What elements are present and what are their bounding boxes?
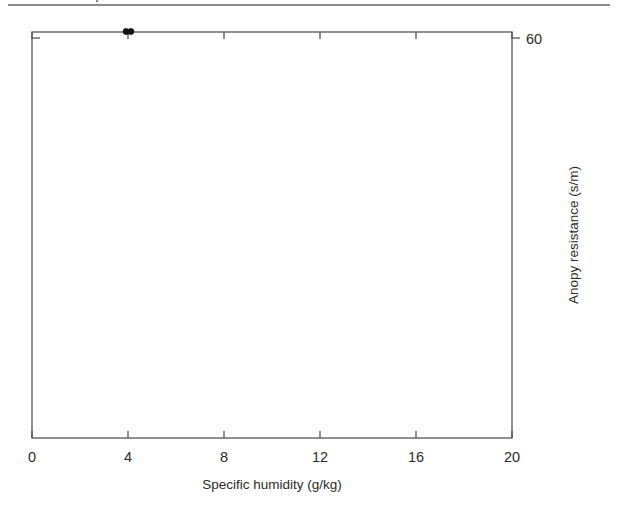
x-tick-label-8: 8 [220,449,228,465]
x-tick-label-20: 20 [504,449,520,465]
y-tick-label-60: 60 [526,31,542,47]
x-axis-title: Specific humidity (g/kg) [202,477,342,492]
x-tick-label-0: 0 [28,449,36,465]
filled-circle-markers [94,0,284,35]
x-tick-label-4: 4 [124,449,132,465]
data-point [128,28,134,34]
x-axis-ticks: 048121620 [28,32,520,465]
scatter-plot: 048121620 60751001503001000 Specific hum… [0,0,618,520]
closed-circle-regression [96,0,280,2]
plot-frame [32,32,512,438]
x-tick-label-12: 12 [312,449,328,465]
regression-lines [96,0,489,2]
figure-container: 048121620 60751001503001000 Specific hum… [0,0,618,520]
x-tick-label-16: 16 [408,449,424,465]
y-axis-title: Anopy resistance (s/m) [566,166,581,304]
y-axis-ticks: 60751001503001000 [32,0,558,47]
